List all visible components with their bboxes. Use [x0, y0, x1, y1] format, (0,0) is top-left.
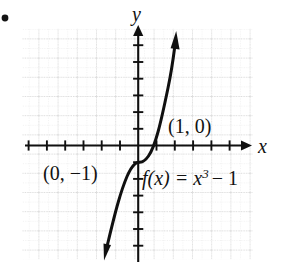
function-equation-prefix: f(x) = x: [142, 167, 202, 190]
point-label-0-neg1: (0, −1): [43, 162, 98, 185]
x-axis-label: x: [257, 135, 267, 157]
function-equation-label: f(x) = x3− 1: [142, 166, 238, 190]
function-equation-suffix: − 1: [212, 167, 238, 189]
svg-text:f(x) = x3− 1: f(x) = x3− 1: [142, 166, 238, 190]
function-equation-exponent: 3: [201, 166, 209, 181]
bullet-marker-icon: [2, 15, 9, 22]
y-axis-label: y: [130, 3, 141, 26]
point-label-1-0: (1, 0): [168, 115, 211, 138]
graph-figure: y x (1, 0) (0, −1) f(x) = x3− 1: [0, 0, 284, 272]
